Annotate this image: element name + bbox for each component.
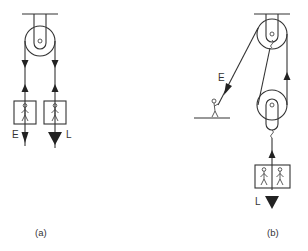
caption-a: (a)	[35, 227, 47, 238]
pulley-axle	[270, 32, 274, 36]
pulley-bracket	[34, 14, 46, 49]
pulley-axle	[270, 103, 274, 107]
movable-pulley-wheel	[257, 90, 287, 120]
arrow-down-icon	[22, 60, 29, 68]
effort-arrow-icon	[22, 132, 29, 143]
pulley-diagram: E L (a) E	[0, 0, 308, 251]
load-arrow-icon	[48, 132, 62, 145]
load-arrow-icon	[265, 196, 279, 209]
hook-icon	[271, 130, 274, 138]
fixed-pulley-wheel	[257, 19, 287, 49]
pulley-axle	[38, 39, 42, 43]
person-pulling-icon	[212, 99, 218, 117]
caption-b: (b)	[267, 227, 279, 238]
effort-arrow-icon	[224, 83, 232, 95]
person-icon	[277, 168, 284, 185]
effort-rope	[218, 28, 258, 105]
panel-a: E L (a)	[12, 14, 72, 238]
load-label: L	[66, 129, 72, 140]
effort-label: E	[12, 129, 19, 140]
effort-label: E	[218, 72, 225, 83]
pulley-wheel	[25, 26, 55, 56]
load-label: L	[255, 196, 261, 207]
fixed-pulley-bracket	[266, 14, 278, 42]
arrow-up-icon	[269, 150, 276, 158]
panel-b: E L	[194, 14, 291, 238]
arrow-up-icon	[284, 72, 291, 80]
person-icon	[261, 168, 268, 185]
movable-pulley-bracket	[266, 99, 278, 130]
arrow-down-icon	[52, 60, 59, 68]
hook-icon	[271, 40, 274, 48]
arrow-up-icon	[22, 84, 29, 92]
arrow-up-icon	[52, 84, 59, 92]
